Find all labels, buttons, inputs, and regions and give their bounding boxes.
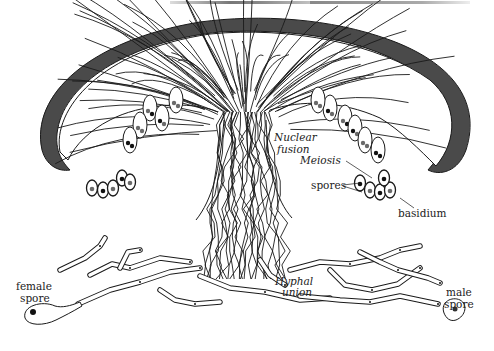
mushroom-diagram xyxy=(0,0,494,351)
nucleus xyxy=(120,177,125,182)
nucleus xyxy=(158,119,162,123)
label-basidium: basidium xyxy=(398,208,447,219)
nucleus xyxy=(388,189,393,194)
label-hyphal-union-2: union xyxy=(282,287,312,298)
nucleus xyxy=(341,119,345,123)
basidium-cell xyxy=(358,127,372,153)
septum-dot xyxy=(371,289,373,291)
septum-dot xyxy=(139,249,141,251)
basidium-cell xyxy=(169,87,183,113)
nucleus xyxy=(378,154,382,158)
nucleus xyxy=(318,104,322,108)
label-female-spore-1: female xyxy=(16,281,52,292)
septum-dot xyxy=(419,267,421,269)
nucleus xyxy=(326,109,330,113)
septum-dot xyxy=(199,267,201,269)
septum-dot xyxy=(349,263,351,265)
nucleus xyxy=(330,112,334,116)
nucleus xyxy=(358,182,363,187)
septum-dot xyxy=(189,261,191,263)
mycelium-hypha-fill xyxy=(60,238,105,270)
nucleus xyxy=(130,144,134,148)
nucleus xyxy=(140,129,144,133)
septum-dot xyxy=(397,269,399,271)
basidium-cell xyxy=(155,105,169,131)
nucleus xyxy=(172,101,176,105)
septum-dot xyxy=(369,301,371,303)
nucleus xyxy=(361,141,365,145)
spore-cell xyxy=(98,182,109,198)
label-meiosis: Meiosis xyxy=(300,155,341,166)
nucleus xyxy=(136,126,140,130)
label-male-spore-1: male xyxy=(446,287,472,298)
nucleus xyxy=(368,189,373,194)
mycelium-hypha-fill xyxy=(160,290,220,304)
nucleus xyxy=(374,151,378,155)
nucleus xyxy=(90,187,95,192)
nucleus xyxy=(162,122,166,126)
septum-dot xyxy=(437,303,439,305)
mycelium-hypha-fill xyxy=(360,252,440,283)
label-spores: spores xyxy=(311,180,346,191)
nucleus xyxy=(382,177,387,182)
nucleus xyxy=(128,181,133,186)
basidium-cell xyxy=(123,127,137,153)
nucleus xyxy=(351,129,355,133)
basidium-cell xyxy=(371,137,385,163)
septum-dot xyxy=(129,267,131,269)
female-spore xyxy=(25,302,82,324)
nucleus xyxy=(365,144,369,148)
septum-dot xyxy=(139,281,141,283)
septum-dot xyxy=(399,249,401,251)
nucleus xyxy=(176,104,180,108)
spore-cell xyxy=(125,174,136,190)
nucleus xyxy=(146,109,150,113)
septum-dot xyxy=(99,245,101,247)
spore-cell xyxy=(87,180,98,196)
nucleus xyxy=(101,189,106,194)
septum-dot xyxy=(264,291,266,293)
nucleus xyxy=(111,187,116,192)
septum-dot xyxy=(439,282,441,284)
spore-cell xyxy=(379,170,390,186)
label-nuclear-fusion-1: Nuclear xyxy=(274,132,317,143)
nucleus xyxy=(378,191,383,196)
nucleus xyxy=(314,101,318,105)
label-male-spore-2: spore xyxy=(444,299,474,310)
spore-cell xyxy=(365,182,376,198)
basidium-cell xyxy=(311,87,325,113)
septum-dot xyxy=(194,303,196,305)
nucleus xyxy=(150,112,154,116)
nucleus xyxy=(126,141,130,145)
label-female-spore-2: spore xyxy=(20,293,50,304)
female-spore-nucleus xyxy=(30,309,36,315)
